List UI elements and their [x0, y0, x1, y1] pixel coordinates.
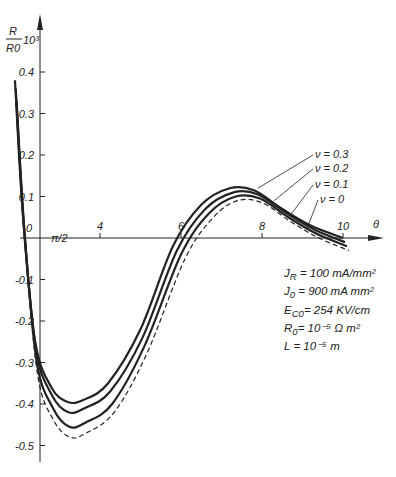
leader-line	[258, 155, 313, 188]
param-ec: EC0= 254 KV/cm	[284, 303, 376, 321]
param-jr: JR = 100 mA/mm²	[284, 266, 376, 284]
leader-line	[290, 185, 313, 215]
series-label: ν = 0.3	[315, 148, 349, 160]
y-axis-title-numerator: R	[9, 25, 17, 37]
axis-break-label: π/2	[51, 232, 68, 244]
origin-label: 0	[26, 222, 33, 234]
series-label: ν = 0.2	[315, 162, 348, 174]
curves	[15, 80, 349, 438]
series-label: ν = 0.1	[315, 178, 348, 190]
param-l: L = 10⁻⁵ m	[284, 339, 376, 353]
y-tick-label: -0.4	[15, 398, 34, 410]
y-tick-label: -0.1	[15, 274, 34, 286]
y-axis-arrow-icon	[37, 14, 43, 30]
axes	[20, 14, 384, 462]
y-tick-label: 0.4	[19, 66, 34, 78]
y-tick-label: 0.2	[19, 149, 34, 161]
leader-line	[274, 169, 313, 201]
parameter-legend: JR = 100 mA/mm² J0 = 900 mA mm² EC0= 254…	[284, 266, 376, 353]
x-tick-label: 6	[178, 220, 185, 232]
param-j0: J0 = 900 mA mm²	[284, 284, 376, 302]
x-axis-arrow-icon	[368, 235, 384, 241]
y-tick-label: 0.3	[19, 108, 35, 120]
x-tick-label: 10	[337, 220, 350, 232]
y-tick-label: -0.2	[15, 315, 34, 327]
y-axis-title-suffix: 10³	[23, 34, 39, 46]
curve-nu-1	[16, 89, 345, 413]
y-tick-label: -0.5	[15, 440, 35, 452]
x-axis-title: θ	[373, 218, 379, 230]
param-r0: R0= 10⁻⁵ Ω m²	[284, 321, 376, 339]
chart-plot: 0.40.30.20.1-0.1-0.2-0.3-0.4-0.5468100π/…	[0, 0, 396, 477]
x-tick-label: 4	[97, 220, 103, 232]
series-label: ν = 0	[320, 193, 345, 205]
curve-nu-2	[17, 101, 347, 428]
x-tick-label: 8	[259, 220, 266, 232]
y-tick-label: 0.1	[19, 191, 34, 203]
y-axis-title-denominator: R0	[6, 42, 21, 54]
y-tick-label: -0.3	[15, 357, 35, 369]
